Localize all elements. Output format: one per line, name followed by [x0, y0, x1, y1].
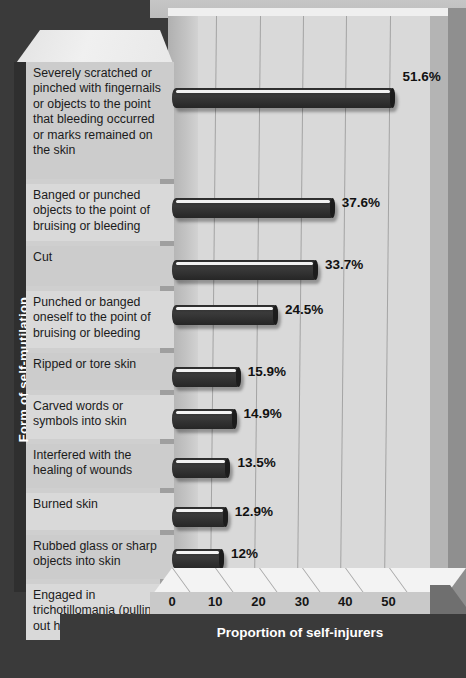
- bar-highlight: [176, 460, 225, 463]
- bar-end-cap: [313, 260, 318, 280]
- category-label: Banged or punched objects to the point o…: [26, 184, 174, 241]
- category-label: Rubbed glass or sharp objects into skin: [26, 535, 174, 579]
- bar-end-cap: [232, 409, 237, 429]
- bar-end-cap: [219, 549, 224, 569]
- category-label: Interfered with the healing of wounds: [26, 444, 174, 488]
- y-axis-title-spine: Form of self-mutilation: [14, 62, 26, 592]
- bar: [172, 507, 228, 527]
- category-label-list: Severely scratched or pinched with finge…: [26, 62, 174, 592]
- bar: [172, 305, 278, 325]
- x-axis-title: Proportion of self-injurers: [150, 622, 450, 644]
- bar-end-cap: [223, 507, 228, 527]
- bar-value-label: 14.9%: [244, 406, 282, 421]
- label-pillar-top: [14, 30, 174, 66]
- bar: [172, 549, 224, 569]
- x-axis-ticks: 01020304050: [0, 592, 466, 614]
- bar-highlight: [176, 509, 223, 512]
- bar-value-label: 13.5%: [237, 455, 275, 470]
- bar-value-label: 12%: [231, 546, 258, 561]
- category-label: Ripped or tore skin: [26, 353, 174, 390]
- bar-value-label: 12.9%: [235, 504, 273, 519]
- bar: [172, 458, 230, 478]
- bar-highlight: [176, 411, 232, 414]
- x-tick-label: 10: [202, 594, 228, 609]
- bar-value-label: 51.6%: [402, 69, 440, 84]
- bar-value-label: 15.9%: [248, 364, 286, 379]
- bar-highlight: [176, 262, 313, 265]
- x-tick-label: 40: [332, 594, 358, 609]
- x-tick-label: 50: [376, 594, 402, 609]
- bar-highlight: [176, 551, 219, 554]
- category-label: Punched or banged oneself to the point o…: [26, 291, 174, 348]
- bar-value-label: 33.7%: [325, 257, 363, 272]
- figure-right-edge: [448, 8, 466, 608]
- bar-end-cap: [330, 198, 335, 218]
- category-label: Carved words or symbols into skin: [26, 395, 174, 439]
- category-label: Burned skin: [26, 493, 174, 530]
- x-tick-label: 30: [289, 594, 315, 609]
- bar: [172, 88, 395, 108]
- bar: [172, 409, 237, 429]
- bar-highlight: [176, 369, 236, 372]
- bar-highlight: [176, 307, 273, 310]
- bar-end-cap: [273, 305, 278, 325]
- bar-value-label: 37.6%: [342, 195, 380, 210]
- bar: [172, 198, 335, 218]
- bar-highlight: [176, 200, 330, 203]
- category-label: Cut: [26, 246, 174, 286]
- bar: [172, 260, 318, 280]
- bar-highlight: [176, 90, 390, 93]
- plot-wall-right-face: [430, 16, 448, 591]
- bar-end-cap: [236, 367, 241, 387]
- category-label: Severely scratched or pinched with finge…: [26, 62, 174, 179]
- x-tick-label: 20: [246, 594, 272, 609]
- chart-figure: Form of self-mutilation Severely scratch…: [0, 0, 466, 678]
- bar-value-label: 24.5%: [285, 302, 323, 317]
- bar: [172, 367, 241, 387]
- x-tick-label: 0: [159, 594, 185, 609]
